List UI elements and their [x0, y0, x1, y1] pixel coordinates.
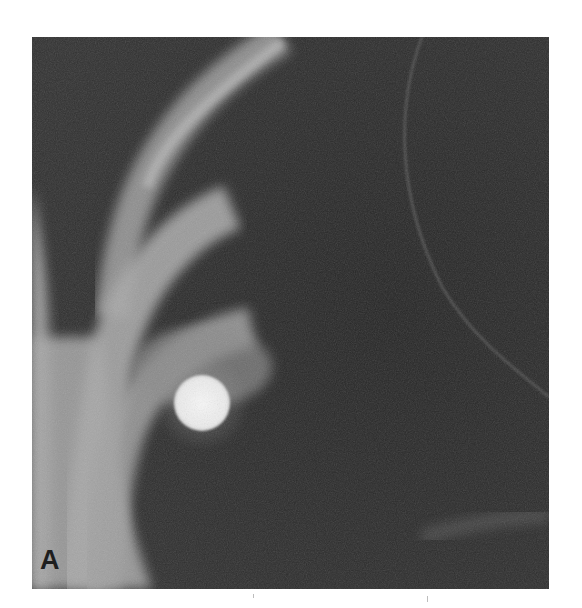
- radiograph-illustration: [32, 37, 549, 589]
- panel-label: A: [40, 547, 60, 574]
- figure-panel: A: [0, 0, 582, 608]
- radiograph-image: A: [32, 37, 549, 589]
- scan-artifact: [427, 596, 428, 602]
- scan-artifact: [253, 594, 254, 598]
